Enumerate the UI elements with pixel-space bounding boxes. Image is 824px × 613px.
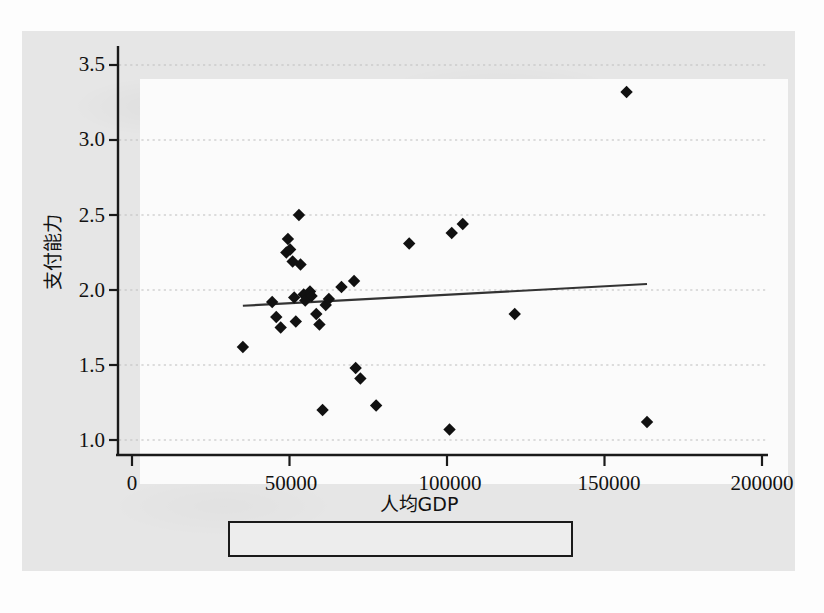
legend-box[interactable] [228,521,573,557]
graph-panel [22,31,795,571]
scanned-page: 3.5 3.0 2.5 2.0 1.5 1.0 0 50000 100000 1… [0,0,824,613]
plot-area [140,79,788,484]
